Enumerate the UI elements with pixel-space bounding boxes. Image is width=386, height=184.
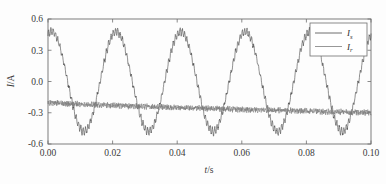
x-tick-label: 0.08 [298, 148, 315, 158]
y-tick-label: 0.0 [31, 77, 43, 87]
series-line-i-r [48, 100, 371, 116]
chart-canvas: 0.000.020.040.060.080.10-0.6-0.30.00.30.… [0, 0, 386, 184]
x-tick-label: 0.00 [40, 148, 57, 158]
svg-text:I/A: I/A [6, 75, 16, 89]
legend-box [310, 23, 367, 56]
x-tick-label: 0.10 [363, 148, 380, 158]
y-tick-label: 0.3 [31, 46, 43, 56]
x-tick-label: 0.06 [233, 148, 250, 158]
y-tick-label: 0.6 [31, 14, 43, 24]
x-tick-label: 0.04 [169, 148, 186, 158]
x-tick-label: 0.02 [104, 148, 121, 158]
figure-container: 0.000.020.040.060.080.10-0.6-0.30.00.30.… [0, 0, 386, 184]
y-tick-label: -0.3 [28, 108, 43, 118]
y-tick-label: -0.6 [28, 139, 43, 149]
svg-text:t/s: t/s [205, 165, 214, 175]
x-axis-title: t/s [205, 165, 214, 175]
chart-legend: IsIr [310, 23, 367, 56]
y-axis-title: I/A [6, 75, 16, 89]
